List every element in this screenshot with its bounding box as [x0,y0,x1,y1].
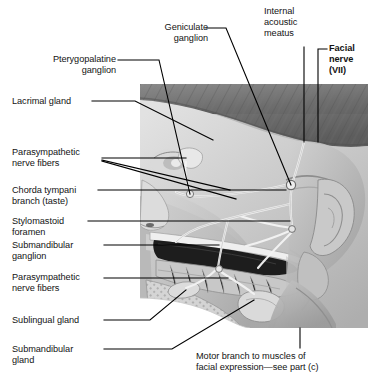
label-facial-nerve: Facial nerve (VII) [329,43,368,77]
label-sublingual-gland: Sublingual gland [12,315,104,326]
label-chorda-tympani-branch: Chorda tympani branch (taste) [12,185,104,207]
facial-nerve-figure: Geniculate ganglion Internal acoustic me… [0,0,368,381]
label-pterygopalatine-ganglion: Pterygopalatine ganglion [16,54,116,76]
label-internal-acoustic-meatus: Internal acoustic meatus [264,6,324,40]
label-motor-branch-caption: Motor branch to muscles of facial expres… [196,351,364,373]
label-submandibular-ganglion: Submandibular ganglion [12,240,108,262]
label-stylomastoid-foramen: Stylomastoid foramen [12,216,100,238]
label-lacrimal-gland: Lacrimal gland [12,96,94,107]
label-geniculate-ganglion: Geniculate ganglion [112,22,208,44]
label-parasympathetic-nerve-fibers-upper: Parasympathetic nerve fibers [12,147,108,169]
label-submandibular-gland: Submandibular gland [12,344,104,366]
label-parasympathetic-nerve-fibers-lower: Parasympathetic nerve fibers [12,272,108,294]
